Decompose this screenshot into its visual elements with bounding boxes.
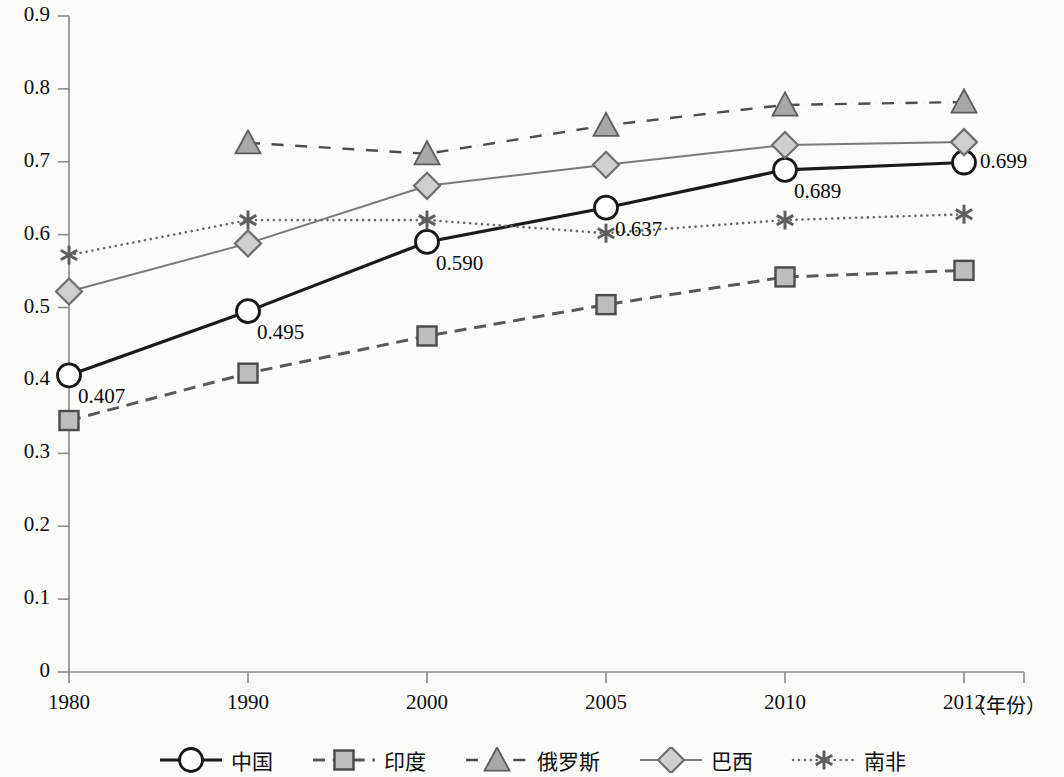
data-point-marker-triangle: [236, 130, 261, 153]
data-label: 0.637: [615, 217, 662, 242]
y-axis-tick-label: 0.3: [0, 439, 50, 464]
y-axis-tick-label: 0.8: [0, 75, 50, 100]
series-line: [69, 270, 964, 420]
data-point-marker-square: [418, 326, 437, 345]
data-label: 0.495: [257, 320, 304, 345]
legend-item-5[interactable]: 南非: [791, 745, 906, 775]
series-line: [69, 214, 964, 255]
x-axis-tick-label: 2005: [546, 690, 666, 715]
legend-symbol-diamond: [638, 747, 704, 773]
data-point-marker-square: [776, 267, 795, 286]
data-point-marker-diamond: [235, 230, 261, 256]
x-axis-tick-label: 1990: [188, 690, 308, 715]
legend-item-4[interactable]: 巴西: [638, 745, 753, 775]
data-point-marker-asterisk: [240, 211, 256, 230]
series-4: [56, 129, 977, 304]
legend-item-2[interactable]: 印度: [311, 745, 426, 775]
data-point-marker-square: [597, 295, 616, 314]
y-axis-tick-label: 0.6: [0, 221, 50, 246]
legend-label: 印度: [384, 745, 426, 775]
x-axis-tick-label: 1980: [9, 690, 129, 715]
data-point-marker-square: [239, 364, 258, 383]
legend-label: 俄罗斯: [537, 745, 600, 775]
y-axis-tick-label: 0.4: [0, 366, 50, 391]
data-label: 0.407: [78, 384, 125, 409]
data-point-marker-square: [335, 750, 354, 769]
data-point-marker-triangle: [485, 747, 510, 770]
legend-item-3[interactable]: 俄罗斯: [464, 745, 600, 775]
data-point-marker-diamond: [658, 747, 684, 773]
data-point-marker-diamond: [414, 173, 440, 199]
line-chart: 00.10.20.30.40.50.60.70.80.9 19801990200…: [0, 0, 1064, 777]
legend-symbol-asterisk: [791, 747, 857, 773]
y-axis-tick-label: 0.5: [0, 294, 50, 319]
chart-series-layer: [56, 90, 977, 431]
legend-label: 南非: [864, 745, 906, 775]
x-axis-tick-label: 2010: [725, 690, 845, 715]
y-axis-tick-label: 0.1: [0, 585, 50, 610]
y-axis-tick-label: 0.2: [0, 512, 50, 537]
y-axis-tick-label: 0.9: [0, 2, 50, 27]
data-point-marker-circle: [180, 748, 203, 771]
y-axis-tick-label: 0: [0, 658, 50, 683]
data-point-marker-triangle: [594, 113, 619, 136]
legend-symbol-circle: [158, 747, 224, 773]
data-label: 0.699: [980, 149, 1027, 174]
data-label: 0.590: [436, 251, 483, 276]
legend-label: 中国: [231, 745, 273, 775]
chart-legend: 中国印度俄罗斯巴西南非: [0, 742, 1064, 777]
data-point-marker-diamond: [56, 279, 82, 305]
chart-plot-area: [0, 0, 1064, 777]
data-point-marker-square: [955, 261, 974, 280]
x-axis-unit-label: （年份）: [966, 690, 1046, 719]
series-5: [61, 205, 972, 265]
series-2: [60, 261, 974, 430]
data-label: 0.689: [794, 179, 841, 204]
chart-axes: [58, 16, 1024, 683]
legend-label: 巴西: [711, 745, 753, 775]
x-axis-tick-label: 2000: [367, 690, 487, 715]
legend-symbol-triangle: [464, 747, 530, 773]
data-point-marker-diamond: [951, 129, 977, 155]
data-point-marker-diamond: [772, 132, 798, 158]
series-line: [69, 142, 964, 291]
legend-item-1[interactable]: 中国: [158, 745, 273, 775]
legend-symbol-square: [311, 747, 377, 773]
data-point-marker-asterisk: [419, 211, 435, 230]
data-point-marker-square: [60, 411, 79, 430]
y-axis-tick-label: 0.7: [0, 148, 50, 173]
data-point-marker-diamond: [593, 152, 619, 178]
